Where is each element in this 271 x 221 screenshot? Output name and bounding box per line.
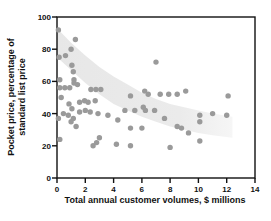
data-point <box>224 113 229 118</box>
data-point <box>93 98 98 103</box>
y-axis-label: Pocket price, percentage ofstandard list… <box>6 11 28 183</box>
data-point <box>152 108 157 113</box>
data-point <box>63 53 68 58</box>
data-point <box>186 130 191 135</box>
data-point <box>166 92 171 97</box>
data-point <box>114 142 119 147</box>
data-point <box>69 63 74 68</box>
data-point <box>88 109 93 114</box>
x-tick-label: 12 <box>217 185 237 194</box>
data-point <box>68 119 73 124</box>
data-point <box>210 111 215 116</box>
scatter-chart: Pocket price, percentage ofstandard list… <box>0 0 271 221</box>
y-axis-label-line1: Pocket price, percentage of <box>6 38 16 156</box>
data-point <box>94 140 99 145</box>
data-point <box>128 143 133 148</box>
data-point <box>183 88 188 93</box>
data-point <box>197 113 202 118</box>
data-point <box>77 109 82 114</box>
trend-band <box>57 28 232 138</box>
data-point <box>143 108 148 113</box>
y-tick-label: 0 <box>28 174 51 183</box>
data-point <box>132 108 137 113</box>
data-point <box>175 92 180 97</box>
data-point <box>66 101 71 106</box>
data-point <box>88 87 93 92</box>
data-point <box>197 119 202 124</box>
data-point <box>62 85 67 90</box>
data-point <box>105 113 110 118</box>
data-point <box>139 125 144 130</box>
y-tick-label: 60 <box>28 77 51 86</box>
data-point <box>95 111 100 116</box>
data-point <box>85 100 90 105</box>
data-point <box>57 137 62 142</box>
data-point <box>225 93 230 98</box>
y-tick-label: 100 <box>28 13 51 22</box>
data-point <box>56 27 61 32</box>
data-point <box>115 117 120 122</box>
y-tick-label: 80 <box>28 45 51 54</box>
data-point <box>162 116 167 121</box>
data-point <box>67 85 72 90</box>
data-point <box>158 92 163 97</box>
x-tick-label: 10 <box>188 185 208 194</box>
data-point <box>61 111 66 116</box>
x-axis-label: Total annual customer volumes, $ million… <box>45 195 265 205</box>
data-point <box>122 108 127 113</box>
data-point <box>57 77 62 82</box>
data-point <box>75 82 80 87</box>
data-point <box>153 59 158 64</box>
y-tick-label: 40 <box>28 110 51 119</box>
plot-border <box>57 17 255 178</box>
data-point <box>197 138 202 143</box>
x-tick-label: 14 <box>245 185 265 194</box>
data-point <box>128 125 133 130</box>
x-tick-label: 6 <box>132 185 152 194</box>
data-point <box>146 92 151 97</box>
data-point <box>69 106 74 111</box>
x-tick-label: 2 <box>75 185 95 194</box>
x-tick-label: 4 <box>104 185 124 194</box>
data-point <box>56 55 61 60</box>
data-point <box>73 37 78 42</box>
data-point <box>68 47 73 52</box>
x-tick-label: 8 <box>160 185 180 194</box>
data-point <box>56 116 61 121</box>
data-point <box>66 113 71 118</box>
y-axis-label-line2: standard list price <box>17 58 27 136</box>
data-point <box>128 93 133 98</box>
data-point <box>167 145 172 150</box>
data-point <box>179 125 184 130</box>
data-point <box>93 87 98 92</box>
data-point <box>83 108 88 113</box>
data-point <box>73 124 78 129</box>
y-tick-label: 20 <box>28 142 51 151</box>
data-point <box>98 87 103 92</box>
x-tick-label: 0 <box>47 185 67 194</box>
data-point <box>71 69 76 74</box>
data-point <box>57 85 62 90</box>
data-point <box>97 135 102 140</box>
data-point <box>77 100 82 105</box>
data-point <box>59 95 64 100</box>
